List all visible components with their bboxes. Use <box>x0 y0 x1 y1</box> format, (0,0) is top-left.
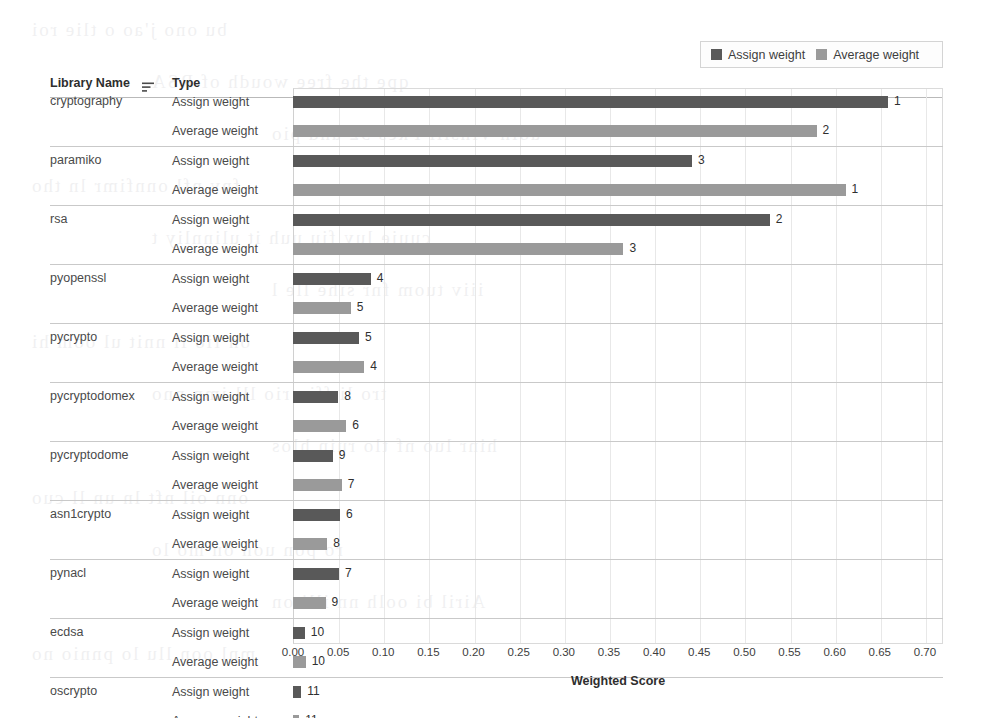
library-group: pycryptoAssign weight5Average weight4 <box>50 324 943 383</box>
bar-track: 10 <box>293 619 943 648</box>
bar-track: 6 <box>293 501 943 530</box>
bar[interactable] <box>293 243 623 255</box>
bar[interactable] <box>293 568 339 580</box>
bar-rank-label: 8 <box>333 536 340 550</box>
row-type-cell: Average weight <box>172 537 258 551</box>
legend-label-average-weight: Average weight <box>833 48 919 62</box>
bar-track: 2 <box>293 206 943 235</box>
bar-rank-label: 3 <box>698 153 705 167</box>
bar-rank-label: 1 <box>894 94 901 108</box>
bar[interactable] <box>293 96 888 108</box>
bar-track: 1 <box>293 88 943 117</box>
bar[interactable] <box>293 361 364 373</box>
bar[interactable] <box>293 332 359 344</box>
bar-track: 11 <box>293 707 943 718</box>
table-row: Assign weight7 <box>50 560 943 589</box>
bar-track: 1 <box>293 176 943 205</box>
bar[interactable] <box>293 538 327 550</box>
bar-rank-label: 7 <box>348 477 355 491</box>
table-row: Average weight6 <box>50 412 943 441</box>
bar-rank-label: 5 <box>365 330 372 344</box>
row-type-cell: Average weight <box>172 478 258 492</box>
table-row: Average weight7 <box>50 471 943 500</box>
bar[interactable] <box>293 450 333 462</box>
table-row: Average weight9 <box>50 589 943 618</box>
row-type-cell: Average weight <box>172 242 258 256</box>
table-row: Assign weight2 <box>50 206 943 235</box>
chart-page: Assign weight Average weight Library Nam… <box>0 0 996 718</box>
bar-track: 7 <box>293 560 943 589</box>
bar[interactable] <box>293 479 342 491</box>
row-type-cell: Average weight <box>172 655 258 669</box>
table-row: Assign weight1 <box>50 88 943 117</box>
row-type-cell: Average weight <box>172 360 258 374</box>
x-axis-tick-label: 0.05 <box>327 646 349 658</box>
bar-rank-label: 5 <box>357 300 364 314</box>
bar[interactable] <box>293 509 340 521</box>
bar[interactable] <box>293 302 351 314</box>
bar-track: 8 <box>293 383 943 412</box>
table-row: Assign weight6 <box>50 501 943 530</box>
bar-rank-label: 2 <box>776 212 783 226</box>
row-type-cell: Assign weight <box>172 390 249 404</box>
table-row: Average weight11 <box>50 707 943 718</box>
bar-rank-label: 2 <box>823 123 830 137</box>
x-axis-tick-label: 0.20 <box>462 646 484 658</box>
x-axis-tick-label: 0.45 <box>688 646 710 658</box>
bar-rank-label: 1 <box>852 182 859 196</box>
bar[interactable] <box>293 597 326 609</box>
bar[interactable] <box>293 420 346 432</box>
x-axis-tick-label: 0.40 <box>643 646 665 658</box>
row-type-cell: Average weight <box>172 301 258 315</box>
row-type-cell: Assign weight <box>172 213 249 227</box>
x-axis-tick-label: 0.10 <box>372 646 394 658</box>
bar-track: 4 <box>293 265 943 294</box>
library-group: paramikoAssign weight3Average weight1 <box>50 147 943 206</box>
bar-rank-label: 4 <box>377 271 384 285</box>
library-group: pycryptodomexAssign weight8Average weigh… <box>50 383 943 442</box>
table-row: Assign weight9 <box>50 442 943 471</box>
bar-track: 5 <box>293 294 943 323</box>
row-type-cell: Average weight <box>172 419 258 433</box>
x-axis-tick-label: 0.65 <box>869 646 891 658</box>
library-group: asn1cryptoAssign weight6Average weight8 <box>50 501 943 560</box>
bar[interactable] <box>293 391 338 403</box>
row-type-cell: Assign weight <box>172 626 249 640</box>
x-axis-tick-label: 0.60 <box>823 646 845 658</box>
legend-item-average-weight[interactable]: Average weight <box>816 48 919 62</box>
row-type-cell: Average weight <box>172 183 258 197</box>
bar[interactable] <box>293 184 846 196</box>
bar-rank-label: 10 <box>311 625 324 639</box>
bar-track: 6 <box>293 412 943 441</box>
bar-track: 3 <box>293 235 943 264</box>
x-axis-ticks: 0.000.050.100.150.200.250.300.350.400.45… <box>293 646 943 664</box>
bar-track: 4 <box>293 353 943 382</box>
row-type-cell: Assign weight <box>172 272 249 286</box>
bar-rank-label: 9 <box>332 595 339 609</box>
table-row: Average weight5 <box>50 294 943 323</box>
row-type-cell: Average weight <box>172 124 258 138</box>
bar[interactable] <box>293 155 692 167</box>
legend-swatch-assign-weight <box>711 49 722 60</box>
x-axis-tick-label: 0.35 <box>598 646 620 658</box>
row-type-cell: Assign weight <box>172 331 249 345</box>
table-row: Average weight1 <box>50 176 943 205</box>
bar-rank-label: 8 <box>344 389 351 403</box>
table-row: Assign weight3 <box>50 147 943 176</box>
row-type-cell: Assign weight <box>172 685 249 699</box>
bar-track: 2 <box>293 117 943 146</box>
bar[interactable] <box>293 273 371 285</box>
bar-rank-label: 3 <box>629 241 636 255</box>
row-type-cell: Assign weight <box>172 508 249 522</box>
table-row: Average weight8 <box>50 530 943 559</box>
row-type-cell: Assign weight <box>172 154 249 168</box>
bar-track: 3 <box>293 147 943 176</box>
bar[interactable] <box>293 214 770 226</box>
bar-rank-label: 9 <box>339 448 346 462</box>
legend-label-assign-weight: Assign weight <box>728 48 805 62</box>
bar[interactable] <box>293 627 305 639</box>
table-row: Average weight2 <box>50 117 943 146</box>
legend-item-assign-weight[interactable]: Assign weight <box>711 48 805 62</box>
table-row: Assign weight5 <box>50 324 943 353</box>
bar[interactable] <box>293 125 817 137</box>
